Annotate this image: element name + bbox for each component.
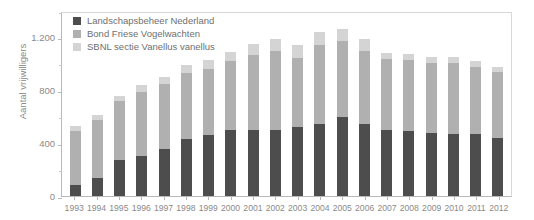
bar-segment <box>225 130 236 196</box>
bar-segment <box>314 45 325 124</box>
bar-column <box>314 13 325 196</box>
bar-segment <box>359 39 370 50</box>
bar-segment <box>159 149 170 196</box>
x-tick-label: 2012 <box>489 203 508 213</box>
stacked-bar-chart: Aantal vrijwilligers 04008001.200 199319… <box>0 0 534 220</box>
bar-segment <box>314 32 325 45</box>
bar-segment <box>181 73 192 139</box>
x-tick-label: 1995 <box>109 203 128 213</box>
x-tick-mark <box>342 197 343 200</box>
y-tick-label: 0 <box>50 191 55 202</box>
x-tick: 1993 <box>69 197 80 219</box>
bar-column <box>359 13 370 196</box>
legend-swatch-icon <box>73 30 81 38</box>
x-tick-label: 2008 <box>400 203 419 213</box>
x-tick: 2005 <box>337 197 348 219</box>
bar-segment <box>337 29 348 42</box>
x-tick-mark <box>164 197 165 200</box>
x-tick-label: 2005 <box>333 203 352 213</box>
x-tick: 2006 <box>359 197 370 219</box>
bar-segment <box>492 72 503 138</box>
bar-segment <box>225 52 236 61</box>
x-tick-label: 2009 <box>422 203 441 213</box>
bar-segment <box>337 41 348 116</box>
y-tick-label: 400 <box>39 138 55 149</box>
bar-column <box>381 13 392 196</box>
x-tick-mark <box>253 197 254 200</box>
x-tick: 1994 <box>91 197 102 219</box>
x-tick-label: 2000 <box>221 203 240 213</box>
bar-segment <box>381 130 392 196</box>
x-tick: 2001 <box>247 197 258 219</box>
bar-segment <box>136 85 147 92</box>
bar-column <box>403 13 414 196</box>
bar-segment <box>70 185 81 196</box>
x-tick-label: 1994 <box>87 203 106 213</box>
bar-segment <box>448 134 459 196</box>
x-tick-label: 2003 <box>288 203 307 213</box>
legend-label: Bond Friese Vogelwachten <box>87 28 200 39</box>
x-tick: 2004 <box>314 197 325 219</box>
x-tick-mark <box>208 197 209 200</box>
bar-segment <box>203 69 214 135</box>
legend-label: SBNL sectie Vanellus vanellus <box>87 41 215 52</box>
legend-label: Landschapsbeheer Nederland <box>87 15 214 26</box>
bar-segment <box>159 77 170 84</box>
x-tick-mark <box>275 197 276 200</box>
bar-segment <box>248 55 259 130</box>
bar-segment <box>70 131 81 186</box>
legend-item: Landschapsbeheer Nederland <box>73 15 215 26</box>
x-tick-mark <box>298 197 299 200</box>
bar-segment <box>292 45 303 58</box>
x-tick-label: 2004 <box>310 203 329 213</box>
bar-segment <box>270 39 281 51</box>
x-tick-mark <box>186 197 187 200</box>
bar-column <box>492 13 503 196</box>
x-tick-mark <box>432 197 433 200</box>
x-tick-label: 1999 <box>199 203 218 213</box>
bar-segment <box>470 67 481 134</box>
bar-segment <box>225 61 236 130</box>
bar-segment <box>314 124 325 196</box>
bar-segment <box>403 131 414 196</box>
x-tick: 1999 <box>203 197 214 219</box>
bar-segment <box>114 101 125 160</box>
x-tick: 2002 <box>270 197 281 219</box>
x-tick-mark <box>97 197 98 200</box>
bar-segment <box>337 117 348 196</box>
y-tick-label: 1.200 <box>31 32 55 43</box>
x-tick-label: 1996 <box>132 203 151 213</box>
x-tick-label: 1997 <box>154 203 173 213</box>
x-tick-mark <box>409 197 410 200</box>
bar-segment <box>181 139 192 196</box>
x-tick-mark <box>387 197 388 200</box>
x-axis-labels: 1993199419951996199719981999200020012002… <box>61 197 512 219</box>
x-tick-mark <box>454 197 455 200</box>
bar-segment <box>492 138 503 196</box>
x-tick-label: 2011 <box>467 203 485 213</box>
bar-segment <box>136 156 147 196</box>
bar-segment <box>381 59 392 130</box>
bar-column <box>448 13 459 196</box>
bar-segment <box>448 63 459 134</box>
bar-segment <box>426 133 437 196</box>
bar-segment <box>359 51 370 124</box>
bar-segment <box>114 160 125 196</box>
x-tick-label: 2007 <box>377 203 396 213</box>
x-tick: 2007 <box>381 197 392 219</box>
legend-swatch-icon <box>73 17 81 25</box>
bar-column <box>225 13 236 196</box>
y-tick-label: 800 <box>39 85 55 96</box>
x-tick-label: 1998 <box>176 203 195 213</box>
bar-column <box>426 13 437 196</box>
bar-segment <box>292 127 303 196</box>
legend-item: Bond Friese Vogelwachten <box>73 28 215 39</box>
bar-column <box>248 13 259 196</box>
x-tick: 2009 <box>426 197 437 219</box>
x-tick: 1996 <box>136 197 147 219</box>
bar-segment <box>203 60 214 69</box>
x-tick-mark <box>365 197 366 200</box>
x-tick-label: 2001 <box>243 203 262 213</box>
x-tick: 2012 <box>493 197 504 219</box>
bar-segment <box>136 92 147 157</box>
